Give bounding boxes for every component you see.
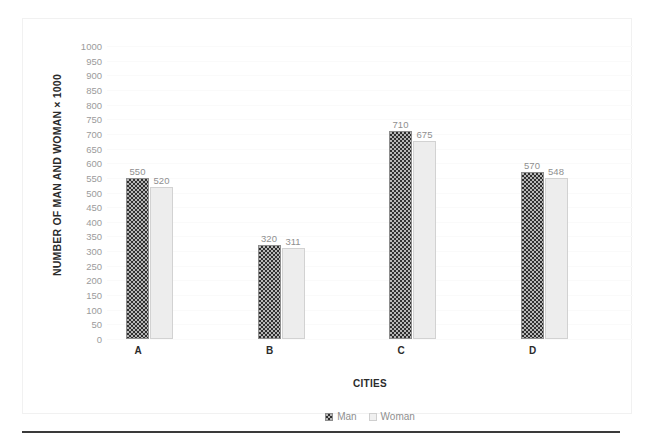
legend-label-woman: Woman	[381, 411, 415, 422]
bar-value-label: 311	[285, 236, 300, 247]
bar-value-label: 710	[393, 119, 409, 130]
legend-item-man[interactable]: Man	[325, 411, 356, 422]
bar-group-bars: 710675	[370, 46, 502, 339]
bar-value-label: 570	[524, 160, 540, 171]
y-axis-tick-label: 250	[86, 260, 102, 271]
bar-group: 320311B	[239, 46, 371, 339]
x-axis-category-label: B	[266, 345, 273, 356]
y-axis-tick-label: 50	[91, 319, 102, 330]
y-axis-tick-label: 900	[86, 70, 102, 81]
chart-legend: Man Woman	[107, 411, 633, 422]
y-axis-tick-label: 200	[86, 275, 102, 286]
plot-area: 1000950900850800750700650600550500450400…	[107, 46, 633, 366]
y-axis-tick-label: 0	[97, 334, 102, 345]
y-axis-tick-label: 1000	[81, 41, 102, 52]
chart-page: NUMBER OF MAN AND WOMAN × 1000 100095090…	[0, 0, 657, 446]
y-axis-tick-label: 400	[86, 216, 102, 227]
y-axis-tick-label: 850	[86, 84, 102, 95]
bar-group-bars: 550520	[107, 46, 239, 339]
y-axis-tick-label: 700	[86, 128, 102, 139]
y-axis-tick-label: 350	[86, 231, 102, 242]
y-axis-tick-label: 150	[86, 290, 102, 301]
y-axis-tick-label: 450	[86, 202, 102, 213]
y-axis-tick-label: 650	[86, 143, 102, 154]
bar-man-b[interactable]: 320	[258, 245, 281, 339]
x-axis-title: CITIES	[107, 378, 633, 389]
bar-man-d[interactable]: 570	[521, 172, 544, 339]
legend-item-woman[interactable]: Woman	[369, 411, 415, 422]
bar-group: 570548D	[502, 46, 634, 339]
bar-woman-a[interactable]: 520	[150, 187, 173, 339]
bar-value-label: 320	[261, 233, 277, 244]
bar-woman-c[interactable]: 675	[413, 141, 436, 339]
y-axis-tick-label: 300	[86, 246, 102, 257]
bar-value-label: 675	[417, 129, 433, 140]
y-axis-tick-label: 600	[86, 158, 102, 169]
y-axis-tick-label: 550	[86, 172, 102, 183]
bar-value-label: 550	[130, 166, 146, 177]
y-axis-tick-label: 750	[86, 114, 102, 125]
bar-value-label: 548	[548, 166, 564, 177]
bar-man-a[interactable]: 550	[126, 178, 149, 339]
x-axis-category-label: C	[397, 345, 404, 356]
y-axis-tick-label: 100	[86, 304, 102, 315]
bar-group-bars: 320311	[239, 46, 371, 339]
x-axis-category-label: D	[529, 345, 536, 356]
y-axis-tick-label: 950	[86, 55, 102, 66]
y-axis-title: NUMBER OF MAN AND WOMAN × 1000	[51, 45, 63, 305]
x-axis-category-label: A	[134, 345, 141, 356]
bar-group: 710675C	[370, 46, 502, 339]
chart-frame: NUMBER OF MAN AND WOMAN × 1000 100095090…	[22, 18, 632, 414]
y-axis-tick-label: 800	[86, 99, 102, 110]
bar-woman-d[interactable]: 548	[545, 178, 568, 339]
bar-value-label: 520	[154, 175, 170, 186]
bar-woman-b[interactable]: 311	[282, 248, 305, 339]
bar-group-bars: 570548	[502, 46, 634, 339]
bar-group: 550520A	[107, 46, 239, 339]
bottom-divider	[22, 431, 620, 433]
gridline	[107, 339, 633, 340]
legend-label-man: Man	[337, 411, 356, 422]
legend-swatch-man-icon	[325, 413, 333, 421]
bar-man-c[interactable]: 710	[389, 131, 412, 339]
y-axis-tick-label: 500	[86, 187, 102, 198]
plot-inner: 1000950900850800750700650600550500450400…	[107, 46, 633, 339]
legend-swatch-woman-icon	[369, 413, 377, 421]
